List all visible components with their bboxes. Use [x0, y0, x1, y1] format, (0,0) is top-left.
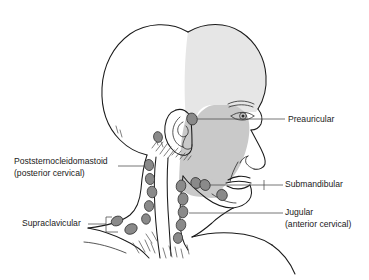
pupil — [242, 115, 245, 118]
label-supraclavicular: Supraclavicular — [22, 218, 81, 228]
label-jugular-line2: (anterior cervical) — [285, 219, 352, 229]
lymph-node-diagram: Preauricular Poststernocleidomastoid (po… — [0, 0, 369, 280]
lymph-node — [141, 214, 151, 225]
label-poststernocleidomastoid-line1: Poststernocleidomastoid — [14, 156, 108, 166]
anatomy-illustration: Preauricular Poststernocleidomastoid (po… — [0, 0, 369, 280]
label-poststernocleidomastoid-line2: (posterior cervical) — [14, 168, 85, 178]
label-submandibular: Submandibular — [285, 179, 343, 189]
lymph-node — [173, 232, 183, 243]
label-jugular-line1: Jugular — [285, 207, 313, 217]
label-preauricular: Preauricular — [288, 114, 334, 124]
